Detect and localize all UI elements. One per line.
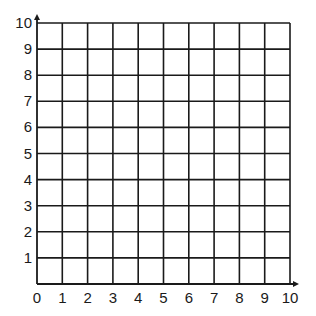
x-tick-label: 1	[58, 289, 66, 306]
arrow-up-icon	[34, 14, 40, 20]
x-tick-label: 8	[235, 289, 243, 306]
y-tick-label: 5	[24, 145, 32, 162]
grid-lines	[37, 23, 290, 284]
y-tick-label: 9	[24, 40, 32, 57]
arrow-right-icon	[293, 281, 299, 287]
y-tick-label: 3	[24, 197, 32, 214]
x-tick-label: 6	[185, 289, 193, 306]
y-tick-label: 1	[24, 249, 32, 266]
x-tick-label: 7	[210, 289, 218, 306]
y-tick-label: 10	[15, 14, 32, 31]
axes	[34, 14, 299, 287]
y-tick-label: 2	[24, 223, 32, 240]
x-axis-tick-labels: 012345678910	[33, 289, 299, 306]
y-axis-tick-labels: 12345678910	[15, 14, 32, 266]
x-tick-label: 3	[109, 289, 117, 306]
x-tick-label: 5	[159, 289, 167, 306]
x-tick-label: 10	[282, 289, 299, 306]
x-tick-label: 2	[83, 289, 91, 306]
y-tick-label: 4	[24, 171, 32, 188]
coordinate-grid: 012345678910 12345678910	[0, 0, 316, 316]
x-tick-label: 4	[134, 289, 142, 306]
y-tick-label: 7	[24, 92, 32, 109]
x-tick-label: 0	[33, 289, 41, 306]
x-tick-label: 9	[261, 289, 269, 306]
y-tick-label: 8	[24, 66, 32, 83]
y-tick-label: 6	[24, 118, 32, 135]
